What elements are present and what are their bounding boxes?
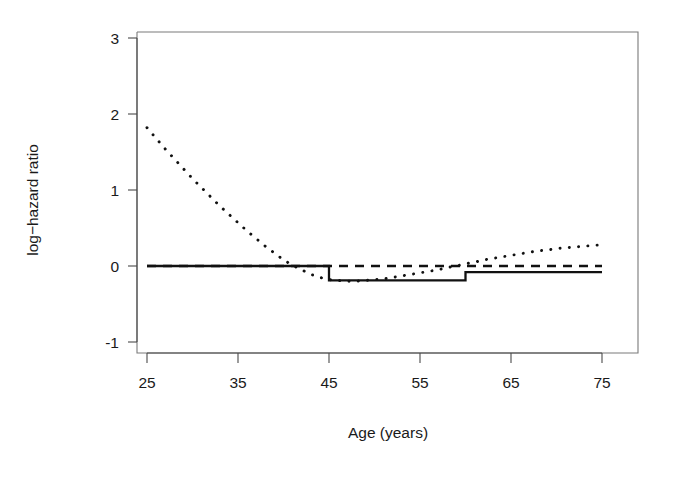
x-tick-label-25: 25 xyxy=(138,374,155,391)
y-tick-label-1: 1 xyxy=(110,182,119,199)
y-axis xyxy=(128,38,137,342)
x-axis-title: Age (years) xyxy=(348,424,428,441)
x-tick-label-65: 65 xyxy=(502,374,519,391)
x-tick-label-45: 45 xyxy=(320,374,337,391)
y-tick-label-0: 0 xyxy=(110,258,119,275)
y-tick-label-2: 2 xyxy=(110,106,119,123)
x-tick-label-55: 55 xyxy=(411,374,428,391)
chart-figure: 3 2 1 0 -1 25 35 45 55 65 75 log−hazard … xyxy=(0,0,691,477)
x-tick-label-35: 35 xyxy=(229,374,246,391)
chart-canvas: 3 2 1 0 -1 25 35 45 55 65 75 log−hazard … xyxy=(0,0,691,477)
series-smooth-dotted xyxy=(147,128,602,282)
data-series-group xyxy=(147,128,602,282)
y-axis-title: log−hazard ratio xyxy=(24,144,41,256)
y-tick-label-minus1: -1 xyxy=(105,334,119,351)
y-tick-labels: 3 2 1 0 -1 xyxy=(105,30,119,351)
series-step-solid xyxy=(147,266,602,280)
x-axis xyxy=(147,353,602,363)
x-tick-label-75: 75 xyxy=(593,374,610,391)
x-tick-labels: 25 35 45 55 65 75 xyxy=(138,374,610,391)
y-tick-label-3: 3 xyxy=(110,30,119,47)
plot-box xyxy=(137,32,638,353)
